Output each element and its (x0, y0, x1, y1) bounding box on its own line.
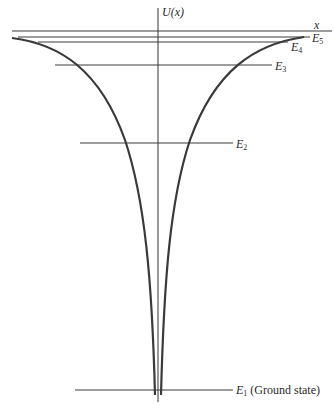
y-axis-label: U(x) (162, 6, 184, 18)
label-e1: E1 (Ground state) (236, 384, 320, 400)
potential-curve-left (12, 38, 155, 395)
y-axis-label-text: U(x) (162, 5, 184, 19)
e5-sub: 5 (319, 37, 323, 46)
e3-sub: 3 (282, 65, 286, 74)
e4-sub: 4 (298, 46, 302, 55)
ground-state-note: (Ground state) (250, 383, 320, 397)
label-e3: E3 (275, 60, 286, 76)
label-e2: E2 (236, 138, 247, 154)
x-axis-label: x (314, 19, 319, 31)
potential-curve-right (161, 37, 304, 395)
x-axis-label-text: x (314, 18, 319, 32)
label-e4: E4 (291, 41, 302, 57)
e1-sub: 1 (243, 389, 247, 398)
e2-sub: 2 (243, 143, 247, 152)
label-e5: E5 (312, 32, 323, 48)
